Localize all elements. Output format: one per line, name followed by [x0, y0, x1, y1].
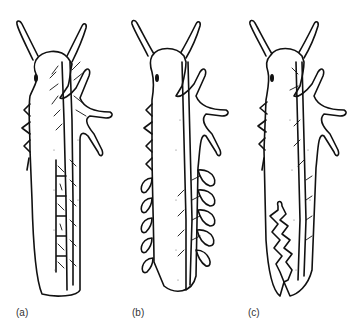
figure: (a): [0, 0, 361, 333]
panel-a-drawing: [0, 0, 120, 310]
panel-a: (a): [0, 0, 120, 333]
panel-b-drawing: [120, 0, 240, 310]
panel-c-drawing: [240, 0, 361, 310]
panel-b: (b): [120, 0, 240, 333]
panel-a-label: (a): [16, 307, 28, 318]
panel-b-label: (b): [132, 307, 144, 318]
panel-c: (c): [240, 0, 361, 333]
panel-c-label: (c): [248, 307, 260, 318]
